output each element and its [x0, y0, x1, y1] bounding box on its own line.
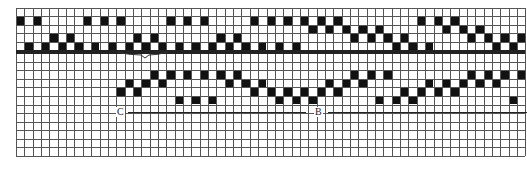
label-c: C: [116, 107, 125, 117]
b-line: [328, 112, 527, 113]
c-line: [128, 112, 306, 113]
weaving-draft-figure: C B: [0, 0, 527, 170]
label-b: B: [314, 107, 323, 117]
brace-mark: [0, 0, 527, 170]
